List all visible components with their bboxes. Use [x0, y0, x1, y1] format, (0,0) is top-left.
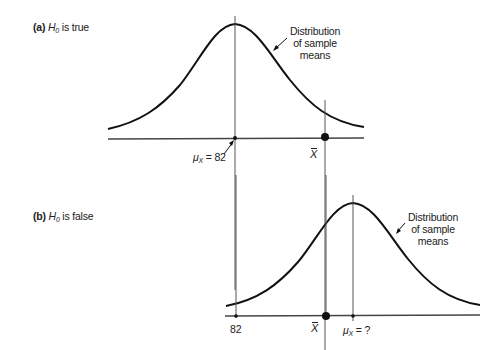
- panel-a-mean-label: μX = 82: [193, 151, 226, 164]
- panel-b-callout-line-3: means: [403, 235, 463, 247]
- panel-b-true-mean-point: [351, 314, 355, 318]
- panel-b-graphics: [225, 175, 480, 321]
- panel-a-tag: (a): [33, 21, 45, 33]
- panel-b-xbar-overline: [312, 322, 318, 323]
- panel-a-mu-value: = 82: [203, 151, 226, 163]
- panel-b-label: (b) H0 is false: [33, 210, 93, 223]
- panel-a-xbar-letter: X: [310, 148, 317, 160]
- panel-b-condition: is false: [60, 210, 94, 222]
- panel-b-callout-line-2: of sample: [403, 223, 463, 235]
- diagram-canvas: [0, 0, 504, 350]
- panel-a-sample-mean-label: X: [310, 148, 317, 160]
- panel-b-callout-text: Distribution of sample means: [403, 211, 463, 247]
- panel-a-callout-text: Distribution of sample means: [285, 25, 345, 61]
- panel-a-mean-arrowhead-icon: [229, 140, 234, 146]
- panel-b-sample-mean-point: [322, 312, 330, 320]
- panel-a-xbar-overline: [311, 148, 317, 149]
- panel-a-sample-mean-point: [321, 133, 329, 141]
- panel-b-mu-value: = ?: [353, 324, 370, 336]
- panel-b-sample-mean-label: X: [311, 322, 318, 334]
- panel-a-mean-point: [233, 136, 237, 140]
- panel-b-hyp-mean-label: 82: [230, 323, 241, 335]
- panel-a-callout-line-2: of sample: [285, 37, 345, 49]
- panel-b-callout-line-1: Distribution: [403, 211, 463, 223]
- panel-b-h-symbol: H: [49, 210, 56, 222]
- panel-a-condition: is true: [59, 21, 89, 33]
- panel-b-true-mean-label: μX = ?: [343, 324, 370, 337]
- panel-b-tag: (b): [33, 210, 46, 222]
- panel-b-xbar-letter: X: [311, 322, 318, 334]
- panel-b-hyp-mean-point: [234, 314, 238, 318]
- panel-a-callout-line-3: means: [285, 49, 345, 61]
- panel-a-label: (a) H0 is true: [33, 21, 89, 34]
- panel-a-callout-line-1: Distribution: [285, 25, 345, 37]
